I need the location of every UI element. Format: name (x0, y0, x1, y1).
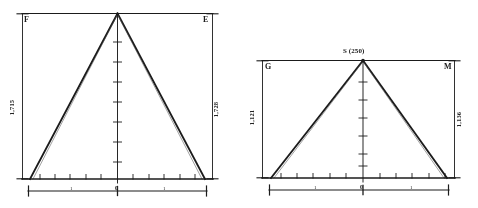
right-diagram-apex-label: S (250) (343, 47, 365, 55)
left-scale-left-value: 1 (70, 186, 73, 191)
right-diagram-right-dimension-label: 1,136 (455, 105, 462, 135)
right-diagram-top-right-label: M (444, 63, 452, 71)
right-scale-left-value: 1 (314, 185, 317, 190)
right-diagram-left-dimension-label: 1,121 (248, 103, 255, 133)
apex-marker-dot (361, 59, 365, 63)
left-diagram-top-left-label: F (24, 16, 29, 24)
right-diagram: S (250) G M 1,121 1,136 1 0 1 (240, 0, 478, 208)
left-diagram-drawing (0, 0, 240, 208)
right-scale-right-value: 1 (410, 185, 413, 190)
right-diagram-right-slope (363, 61, 447, 179)
left-diagram: F E 1,715 1,728 1 0 1 (0, 0, 240, 208)
right-diagram-top-left-label: G (265, 63, 271, 71)
left-scale-center-value: 0 (115, 186, 118, 192)
right-diagram-drawing (240, 0, 478, 208)
right-diagram-left-slope-shadow (274, 62, 363, 179)
left-diagram-right-dimension-label: 1,728 (212, 95, 219, 125)
right-scale-center-value: 0 (360, 185, 363, 191)
right-slope-line-shadow (118, 15, 203, 180)
left-slope-line-shadow (33, 15, 118, 180)
scanned-figure-page: F E 1,715 1,728 1 0 1 (0, 0, 478, 208)
right-diagram-right-slope-shadow (363, 62, 444, 179)
right-slope-line (118, 14, 206, 180)
left-scale-right-value: 1 (163, 186, 166, 191)
left-slope-line (30, 14, 118, 180)
left-diagram-left-dimension-label: 1,715 (8, 93, 15, 123)
left-diagram-top-right-label: E (203, 16, 209, 24)
right-diagram-left-slope (271, 61, 363, 179)
